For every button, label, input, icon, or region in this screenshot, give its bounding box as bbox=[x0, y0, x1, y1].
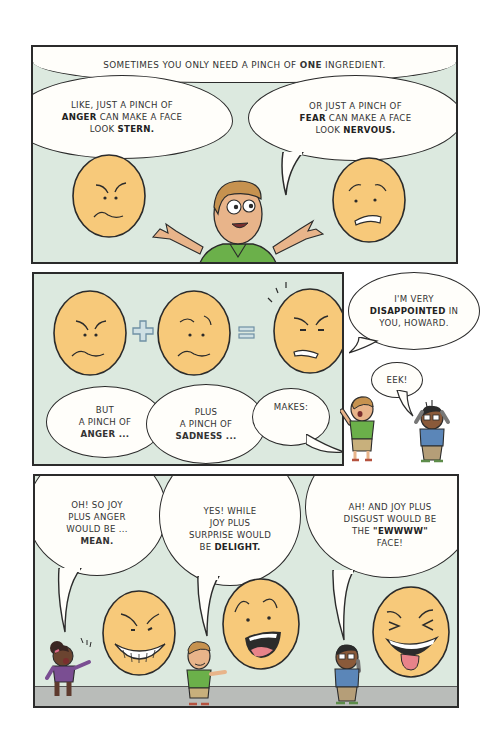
boy-glasses-blue-shirt bbox=[410, 400, 454, 464]
boy-glasses-blue-shirt bbox=[325, 641, 369, 708]
plus-icon bbox=[132, 320, 154, 342]
nervous-face bbox=[331, 155, 407, 245]
speech-bubble-ewww: Ah! And joy plus disgust would be the "E… bbox=[305, 474, 459, 578]
bubble-tail bbox=[195, 576, 223, 638]
sadness-face bbox=[156, 288, 232, 378]
bubble-tail bbox=[349, 337, 379, 357]
bubble-tail bbox=[330, 570, 358, 642]
boy-green-shirt bbox=[340, 395, 380, 463]
disappointed-face bbox=[258, 278, 344, 378]
stern-face bbox=[71, 153, 147, 239]
speech-bubble-delight: Yes! While joy plus surprise would be DE… bbox=[159, 474, 301, 586]
panel-3: Oh! So joy plus anger would be ... MEAN.… bbox=[33, 474, 459, 708]
caption-text: Sometimes you only need a pinch of ONE i… bbox=[103, 60, 385, 70]
panel-1: Sometimes you only need a pinch of ONE i… bbox=[31, 45, 458, 264]
anger-face bbox=[52, 288, 128, 378]
speech-bubble-fear: Or just a pinch of FEAR can make a face … bbox=[248, 75, 458, 161]
ewww-face bbox=[371, 584, 451, 680]
floor bbox=[35, 686, 457, 706]
panel-2: But a pinch of ANGER ... Plus a pinch of… bbox=[32, 272, 344, 466]
mean-face bbox=[101, 588, 177, 678]
delight-face bbox=[221, 576, 301, 672]
equals-icon bbox=[238, 326, 256, 340]
shrugging-man bbox=[148, 169, 328, 264]
speech-bubble-anger: Like, just a pinch of ANGER can make a f… bbox=[31, 75, 233, 159]
boy-green-shirt bbox=[179, 636, 229, 708]
bubble-tail bbox=[55, 568, 85, 633]
speech-bubble-mean: Oh! So joy plus anger would be ... MEAN. bbox=[33, 474, 167, 576]
girl-purple-shirt bbox=[45, 634, 95, 704]
speech-bubble-plus-sadness: Plus a pinch of SADNESS ... bbox=[146, 384, 266, 464]
bubble-tail bbox=[306, 434, 344, 456]
